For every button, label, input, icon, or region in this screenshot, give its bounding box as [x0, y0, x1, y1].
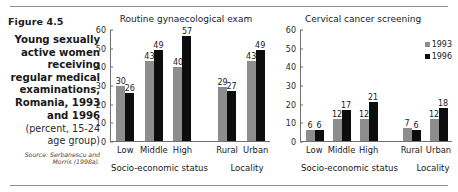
top-divider-rule [10, 6, 448, 7]
bar-1996: 49 [154, 50, 163, 141]
bar-pair: 3026 [111, 30, 140, 141]
x-axis-line [110, 141, 270, 142]
y-axis-tick-label: 50 [286, 44, 300, 53]
legend-label: 1993 [432, 40, 452, 49]
bar-value-label: 27 [227, 82, 237, 91]
bar-pair: 76 [398, 30, 425, 141]
category-label: Middle [328, 145, 356, 155]
bar-pair: 1217 [328, 30, 355, 141]
y-axis-tick-label: 20 [96, 100, 110, 109]
y-axis-tick-label: 30 [286, 82, 300, 91]
bar-value-label: 7 [404, 119, 409, 128]
x-axis-line [300, 141, 452, 142]
bar-value-label: 26 [125, 84, 135, 93]
axis-group-label: Locality [414, 163, 452, 173]
bar-1996: 27 [227, 91, 236, 141]
bar-1993: 29 [218, 87, 227, 141]
bar-group: 6612171221 [301, 30, 382, 141]
y-axis-tick-label: 40 [96, 63, 110, 72]
bar-1993: 43 [247, 61, 256, 141]
bar-1993: 12 [360, 119, 369, 141]
y-axis-tick-label: 40 [286, 63, 300, 72]
category-label-group: LowMiddleHigh [111, 145, 197, 155]
y-axis-tick-label: 20 [286, 100, 300, 109]
bar-1993: 43 [145, 61, 154, 141]
bar-value-label: 21 [368, 93, 378, 102]
bar-1996: 18 [439, 108, 448, 141]
y-axis-tick-mark [110, 142, 113, 143]
chart-legend: 19931996 [425, 40, 452, 61]
category-group-labels: Socio-economic statusLocality [301, 163, 452, 173]
chart-title: Routine gynaecological exam [86, 14, 272, 24]
bar-1993: 6 [306, 130, 315, 141]
legend-label: 1996 [432, 52, 452, 61]
bar-value-label: 17 [341, 101, 351, 110]
y-axis-tick-label: 0 [101, 138, 110, 147]
category-label: Rural [398, 145, 425, 155]
legend-item: 1996 [425, 52, 452, 61]
bar-1993: 12 [430, 119, 439, 141]
bar-1993: 40 [173, 67, 182, 141]
bar-pair: 4057 [168, 30, 197, 141]
category-label-group: RuralUrban [213, 145, 270, 155]
category-group-labels: Socio-economic statusLocality [111, 163, 270, 173]
y-axis-tick-label: 60 [96, 26, 110, 35]
category-tick-labels: LowMiddleHighRuralUrban [111, 145, 270, 155]
group-spacer [197, 145, 213, 155]
bar-1996: 49 [256, 50, 265, 141]
bar-1996: 21 [369, 102, 378, 141]
bar-1996: 26 [125, 93, 134, 141]
bar-value-label: 6 [413, 121, 418, 130]
category-label: Low [301, 145, 328, 155]
bar-value-label: 49 [255, 41, 265, 50]
axis-group-label: Socio-economic status [111, 163, 208, 173]
bar-1996: 6 [412, 130, 421, 141]
chart-title: Cervical cancer screening [276, 14, 454, 24]
group-spacer [208, 163, 224, 173]
bar-1993: 30 [116, 86, 125, 142]
bar-1993: 7 [403, 128, 412, 141]
category-label-group: RuralUrban [398, 145, 452, 155]
bar-pair: 4349 [241, 30, 270, 141]
group-spacer [398, 163, 414, 173]
legend-swatch-1993 [425, 42, 430, 47]
bar-group: 302643494057 [111, 30, 197, 141]
bar-value-label: 6 [316, 121, 321, 130]
bar-pair: 66 [301, 30, 328, 141]
y-axis-tick-label: 30 [96, 82, 110, 91]
category-label: Middle [140, 145, 169, 155]
y-axis-tick-label: 10 [96, 119, 110, 128]
bar-1996: 57 [182, 36, 191, 141]
category-tick-labels: LowMiddleHighRuralUrban [301, 145, 452, 155]
bar-value-label: 49 [153, 41, 163, 50]
plot-area: 0102030405060 30264349405729274349 [110, 30, 270, 142]
group-spacer [382, 145, 398, 155]
bar-value-label: 6 [307, 121, 312, 130]
category-label-group: LowMiddleHigh [301, 145, 382, 155]
bar-pair: 4349 [140, 30, 169, 141]
bar-value-label: 57 [182, 27, 192, 36]
category-label: High [168, 145, 197, 155]
axis-group-label: Socio-economic status [301, 163, 398, 173]
bar-value-label: 18 [438, 99, 448, 108]
category-label: High [355, 145, 382, 155]
y-axis-tick-label: 50 [96, 44, 110, 53]
y-axis-tick-label: 60 [286, 26, 300, 35]
y-axis-tick-label: 10 [286, 119, 300, 128]
category-label: Urban [425, 145, 452, 155]
bar-1996: 6 [315, 130, 324, 141]
category-label: Urban [241, 145, 270, 155]
category-label: Low [111, 145, 140, 155]
category-label: Rural [213, 145, 242, 155]
group-spacer [197, 30, 213, 141]
figure-container: Figure 4.5 Young sexually active women r… [0, 0, 458, 192]
legend-item: 1993 [425, 40, 452, 49]
axis-group-label: Locality [224, 163, 270, 173]
chart-panel-cervical-cancer-screening: Cervical cancer screening 0102030405060 … [276, 14, 454, 186]
y-axis-tick-label: 0 [291, 138, 300, 147]
y-axis-tick-mark [300, 142, 303, 143]
bars-container: 30264349405729274349 [111, 30, 270, 141]
bar-1993: 12 [333, 119, 342, 141]
bar-pair: 2927 [213, 30, 242, 141]
bar-group: 29274349 [213, 30, 270, 141]
